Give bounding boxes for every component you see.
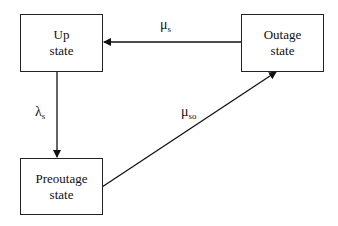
node-preoutage-label-2: state [50, 187, 74, 203]
node-up-state: Up state [20, 14, 103, 72]
node-preoutage-state: Preoutage state [20, 158, 103, 215]
edge-label-mu-so: μso [181, 104, 197, 121]
edge-preoutage-to-outage [102, 72, 276, 187]
node-up-label-2: state [50, 43, 74, 59]
edge-label-mu-s: μs [160, 17, 171, 34]
edge-label-lambda-s: λs [35, 104, 45, 121]
node-outage-state: Outage state [241, 14, 324, 72]
node-outage-label-2: state [271, 43, 295, 59]
node-outage-label-1: Outage [264, 27, 302, 43]
node-preoutage-label-1: Preoutage [36, 171, 88, 187]
node-up-label-1: Up [54, 27, 70, 43]
